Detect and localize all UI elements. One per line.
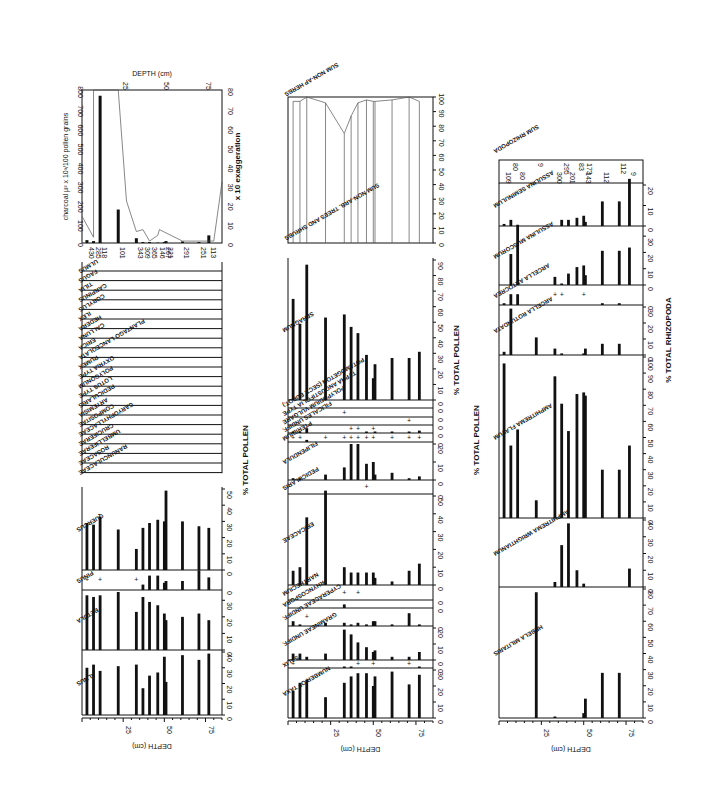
- bar: [554, 582, 557, 587]
- bar: [181, 617, 184, 650]
- svg-text:600: 600: [77, 124, 84, 136]
- bar: [357, 444, 360, 480]
- pollen-sum: 291: [183, 247, 190, 259]
- svg-text:10: 10: [226, 556, 233, 564]
- svg-text:10: 10: [226, 635, 233, 643]
- bar: [156, 672, 159, 715]
- bar: [618, 201, 621, 226]
- bar: [628, 248, 631, 285]
- svg-text:25: 25: [543, 729, 550, 737]
- bar: [142, 528, 145, 570]
- svg-text:50: 50: [226, 491, 233, 499]
- bar: [560, 353, 563, 355]
- svg-text:+: +: [342, 409, 346, 416]
- bar: [324, 491, 327, 585]
- bar: [156, 576, 159, 590]
- svg-text:0: 0: [647, 228, 654, 232]
- bar: [117, 592, 120, 650]
- svg-text:75: 75: [205, 82, 212, 90]
- svg-text:10: 10: [647, 271, 654, 279]
- track-pinus: +++0PINUS: [76, 570, 234, 595]
- bar: [628, 179, 631, 226]
- bar: [207, 620, 210, 650]
- bar: [567, 274, 570, 285]
- bar: [601, 470, 604, 518]
- svg-text:90: 90: [438, 110, 445, 118]
- svg-text:20: 20: [227, 203, 234, 211]
- track-sphagnum: 0102030405060708090SPHAGNUM: [282, 258, 445, 406]
- bar: [418, 675, 421, 718]
- bar: [509, 309, 512, 355]
- rhizopod-sum: 300: [556, 172, 563, 184]
- svg-text:+: +: [407, 434, 411, 441]
- svg-text:700: 700: [77, 105, 84, 117]
- bar: [391, 358, 394, 400]
- bar: [86, 523, 89, 570]
- bar: [156, 520, 159, 570]
- svg-text:25: 25: [122, 82, 129, 90]
- taxon-label: ARCELLA ROTUNDATA: [492, 296, 554, 335]
- bar: [584, 699, 587, 718]
- pollen-sum: 221: [167, 247, 174, 259]
- bar: [207, 528, 210, 570]
- total-pollen-label: % TOTAL POLLEN: [241, 425, 250, 495]
- svg-text:+: +: [371, 660, 375, 667]
- depth-axis-label: DEPTH (cm): [341, 745, 381, 753]
- svg-text:50: 50: [163, 82, 170, 90]
- bar: [391, 473, 394, 480]
- bar: [601, 201, 604, 226]
- svg-text:10: 10: [226, 701, 233, 709]
- svg-text:% TOTAL POLLEN: % TOTAL POLLEN: [472, 405, 481, 475]
- bar: [408, 684, 411, 718]
- svg-text:40: 40: [437, 340, 444, 348]
- taxon-label: PEDICULARIS: [282, 466, 320, 492]
- svg-text:10: 10: [437, 646, 444, 654]
- svg-text:40: 40: [438, 183, 445, 191]
- svg-text:+: +: [582, 291, 586, 298]
- bar: [343, 630, 346, 660]
- pollen-rhizopod-diagram: 0010010200203003040040500506006070070800…: [0, 0, 710, 789]
- rhizopod-sum: 173: [586, 163, 593, 175]
- svg-text:25: 25: [125, 726, 132, 734]
- svg-text:20: 20: [437, 630, 444, 638]
- svg-text:+: +: [349, 434, 353, 441]
- svg-text:400: 400: [77, 163, 84, 175]
- bar: [148, 676, 151, 715]
- bar: [418, 624, 421, 626]
- svg-text:40: 40: [226, 507, 233, 515]
- bar: [503, 224, 506, 226]
- bar: [156, 605, 159, 650]
- svg-text:0: 0: [437, 418, 444, 422]
- bar: [560, 404, 563, 518]
- rhizopod-sum: 201: [569, 172, 576, 184]
- pollen-sum: 113: [210, 247, 217, 258]
- bar: [148, 602, 151, 650]
- svg-text:200: 200: [77, 201, 84, 213]
- svg-text:+: +: [407, 417, 411, 424]
- bar: [554, 277, 557, 285]
- svg-text:0: 0: [226, 572, 233, 576]
- svg-text:+: +: [371, 425, 375, 432]
- bar: [165, 620, 168, 650]
- summary-curve-chart: 0102030405060708090100SUM NON-AP HERBSSU…: [284, 62, 446, 248]
- svg-text:80: 80: [647, 591, 654, 599]
- bar: [503, 352, 506, 355]
- svg-text:+: +: [356, 660, 360, 667]
- svg-text:75: 75: [208, 726, 215, 734]
- svg-text:+: +: [342, 434, 346, 441]
- svg-text:0: 0: [437, 587, 444, 591]
- bar: [567, 523, 570, 587]
- bar: [343, 623, 346, 626]
- charcoal-chart: 0010010200203003040040500506006070070800…: [62, 70, 242, 259]
- svg-text:30: 30: [647, 238, 654, 246]
- svg-text:75: 75: [628, 729, 635, 737]
- svg-text:500: 500: [77, 144, 84, 156]
- rhizopod-sum: 109: [505, 172, 512, 184]
- track-amphitrema-wrightianum: 010203040AMPHITREMA WRIGHTIANUM: [493, 509, 655, 593]
- taxon-label: FILIPENDULA: [281, 440, 319, 465]
- svg-text:+: +: [356, 425, 360, 432]
- bar: [576, 267, 579, 285]
- bar: [299, 324, 302, 400]
- svg-text:90: 90: [647, 375, 654, 383]
- svg-text:30: 30: [438, 197, 445, 205]
